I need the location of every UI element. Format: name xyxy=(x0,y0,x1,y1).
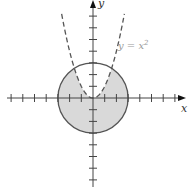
chart-svg: x y y = x2 xyxy=(0,0,188,193)
parabola-label: y = x2 xyxy=(117,39,149,51)
x-axis-arrow-icon xyxy=(178,95,186,101)
y-axis-label: y xyxy=(97,0,105,10)
y-axis-arrow-icon xyxy=(90,0,96,8)
x-axis-label: x xyxy=(181,102,188,115)
